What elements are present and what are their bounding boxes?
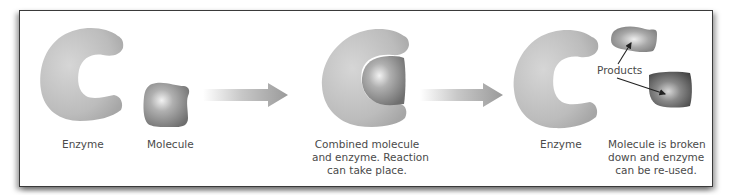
enzyme-label: Enzyme	[62, 138, 104, 151]
molecule-shape	[143, 83, 189, 127]
combined-label-line-2: and enzyme. Reaction	[312, 151, 422, 164]
enzyme-shape	[40, 28, 123, 121]
result-label-line-1: Molecule is broken	[608, 138, 704, 151]
combined-label: Combined molecule and enzyme. Reaction c…	[312, 138, 422, 177]
enzyme-reused-shape	[514, 30, 599, 128]
products-label: Products	[597, 64, 642, 77]
combined-label-line-3: can take place.	[312, 164, 422, 177]
product-2-shape	[649, 72, 692, 108]
enzyme-reused-label: Enzyme	[540, 138, 582, 151]
combined-label-line-1: Combined molecule	[312, 138, 422, 151]
result-label: Molecule is broken down and enzyme can b…	[608, 138, 704, 177]
product-1-shape	[611, 27, 657, 52]
arrow-1-icon	[203, 83, 288, 107]
arrow-2-icon	[420, 83, 503, 107]
result-label-line-3: can be re-used.	[608, 164, 704, 177]
combined-shape	[322, 29, 409, 127]
molecule-label: Molecule	[147, 138, 194, 151]
result-label-line-2: down and enzyme	[608, 151, 704, 164]
